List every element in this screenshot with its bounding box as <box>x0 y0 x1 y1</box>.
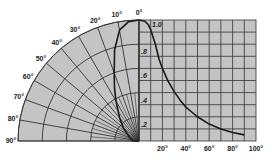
chart: 0°10°20°30°40°50°60°70°80°90°20°40°60°80… <box>0 0 278 168</box>
angle-tick-label: 80° <box>8 115 19 122</box>
angle-tick-label: 20° <box>90 17 101 24</box>
angle-tick-label: 60° <box>23 73 34 80</box>
y-tick-label: .4 <box>141 97 147 104</box>
y-tick-label: 1.0 <box>152 21 162 28</box>
x-tick-label: 20° <box>157 145 168 152</box>
x-tick-label: 80° <box>227 145 238 152</box>
y-tick-label: .2 <box>141 121 147 128</box>
y-tick-label: .6 <box>141 72 147 79</box>
y-tick-label: .8 <box>141 48 147 55</box>
angle-tick-label: 90° <box>6 137 17 144</box>
angle-tick-label: 0° <box>136 9 143 16</box>
angle-tick-label: 40° <box>51 39 62 46</box>
angle-tick-label: 30° <box>70 26 81 33</box>
chart-canvas: 0°10°20°30°40°50°60°70°80°90°20°40°60°80… <box>0 0 278 168</box>
angle-tick-label: 70° <box>13 93 24 100</box>
angle-tick-label: 50° <box>36 55 47 62</box>
x-tick-label: 100° <box>249 145 264 152</box>
x-tick-label: 40° <box>181 145 192 152</box>
x-tick-label: 60° <box>204 145 215 152</box>
angle-tick-label: 10° <box>111 11 122 18</box>
